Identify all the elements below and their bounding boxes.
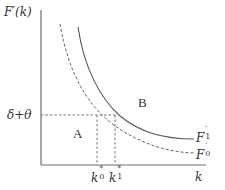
- k0-star-scripts: *0: [98, 172, 105, 182]
- curve-f0-label-main: F: [196, 148, 204, 162]
- curve-f1: [78, 27, 194, 139]
- k0-star-sub: 0: [99, 173, 104, 181]
- curve-f1-label-sub: 1: [205, 133, 210, 141]
- curve-f0-label-scripts: ′0: [204, 149, 211, 159]
- y-axis-label: F′(k): [4, 6, 32, 18]
- x-axis-label: k: [195, 171, 202, 183]
- k1-star-main: k: [109, 171, 116, 185]
- k0-star-label: k*0: [91, 172, 105, 184]
- region-b-label: B: [138, 96, 147, 109]
- k1-star-scripts: *1: [116, 172, 123, 182]
- k1-star-sub: 1: [117, 173, 122, 181]
- k1-star-label: k*1: [109, 172, 123, 184]
- curve-f1-label-main: F: [196, 131, 204, 145]
- diagram-canvas: [0, 0, 225, 190]
- curve-f1-label: F′1: [196, 132, 211, 144]
- k0-star-main: k: [91, 171, 98, 185]
- delta-theta-label: δ+θ: [7, 109, 32, 121]
- curve-f0-label: F′0: [196, 149, 211, 161]
- region-a-label: A: [73, 127, 82, 140]
- curve-f0-label-sub: 0: [205, 150, 210, 158]
